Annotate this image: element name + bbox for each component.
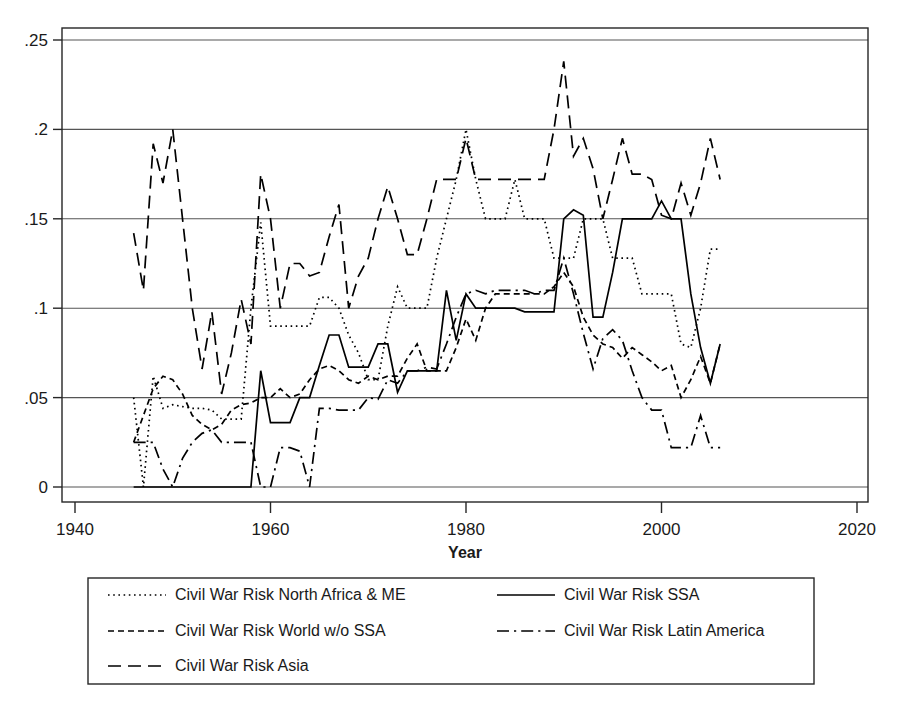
x-tick-label-4: 2020 (838, 520, 876, 539)
gridlines (62, 40, 868, 487)
data-series (134, 61, 721, 487)
chart-page: 0.05.1.15.2.25 19401960198020002020 Year… (0, 0, 900, 706)
y-tick-label-4: .2 (34, 120, 48, 139)
x-tick-label-0: 1940 (56, 520, 94, 539)
y-tick-label-1: .05 (24, 389, 48, 408)
legend-label-0: Civil War Risk North Africa & ME (175, 586, 406, 603)
x-tick-label-3: 2000 (643, 520, 681, 539)
x-axis-tick-labels: 19401960198020002020 (56, 520, 876, 539)
y-tick-label-3: .15 (24, 210, 48, 229)
civil-war-risk-line-chart: 0.05.1.15.2.25 19401960198020002020 Year… (0, 0, 900, 706)
series-line-civil-war-risk-asia (134, 61, 721, 394)
series-line-civil-war-risk-world-w-o-ssa (134, 272, 721, 442)
axis-ticks (53, 40, 857, 513)
legend-label-3: Civil War Risk Latin America (564, 622, 764, 639)
legend: Civil War Risk North Africa & MECivil Wa… (88, 578, 814, 684)
x-tick-label-2: 1980 (447, 520, 485, 539)
series-line-civil-war-risk-latin-america (134, 258, 721, 487)
legend-label-2: Civil War Risk World w/o SSA (175, 622, 386, 639)
y-tick-label-0: 0 (39, 478, 48, 497)
legend-label-4: Civil War Risk Asia (175, 657, 309, 674)
plot-area-border (62, 28, 868, 502)
x-axis-title: Year (448, 544, 482, 561)
y-tick-label-2: .1 (34, 299, 48, 318)
series-line-civil-war-risk-ssa (134, 201, 721, 487)
y-axis-tick-labels: 0.05.1.15.2.25 (24, 31, 48, 497)
plot-frame (62, 28, 868, 502)
y-tick-label-5: .25 (24, 31, 48, 50)
x-tick-label-1: 1960 (252, 520, 290, 539)
legend-label-1: Civil War Risk SSA (564, 586, 700, 603)
